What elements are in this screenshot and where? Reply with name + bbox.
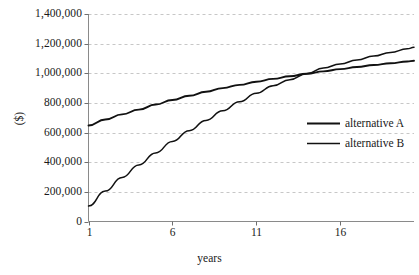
- y-axis-tick-label-text: 1,000,000: [0, 67, 82, 79]
- y-axis-ticks: [85, 15, 89, 223]
- x-axis-ticks: [90, 222, 341, 226]
- y-axis-tick-label-text: 200,000: [0, 186, 82, 198]
- x-axis-tick-label: 11: [237, 226, 277, 240]
- y-axis-title: ($): [13, 104, 26, 134]
- y-axis-tick-label: 1,400,000: [0, 8, 82, 20]
- y-axis-tick-label: 400,000: [0, 156, 82, 168]
- legend-label-alternative-a: alternative A: [345, 117, 404, 130]
- x-axis-tick-label: 1: [70, 226, 110, 240]
- y-axis-tick-label-text: 400,000: [0, 156, 82, 168]
- y-axis-tick-label: 200,000: [0, 186, 82, 198]
- x-axis-tick-label-text: 1: [70, 226, 110, 239]
- y-axis-tick-label: 1,000,000: [0, 67, 82, 79]
- y-axis-tick-label: 1,200,000: [0, 38, 82, 50]
- y-axis-tick-label-text: 1,200,000: [0, 38, 82, 50]
- series-line-alternative-a: [89, 61, 415, 126]
- x-axis-tick-label-text: 11: [237, 226, 277, 239]
- y-axis-tick-label-text: 1,400,000: [0, 8, 82, 20]
- x-axis-tick-label-text: 6: [153, 226, 193, 239]
- x-axis-tick-label-text: 16: [321, 226, 361, 239]
- x-axis-title: years: [0, 252, 419, 265]
- line-chart: 0200,000400,000600,000800,0001,000,0001,…: [0, 0, 419, 275]
- legend-label-alternative-b: alternative B: [345, 137, 404, 150]
- x-axis-tick-label: 6: [153, 226, 193, 240]
- x-axis-tick-label: 16: [321, 226, 361, 240]
